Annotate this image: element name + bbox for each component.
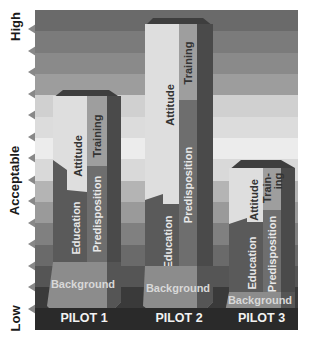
y-axis-acceptable-text: Acceptable	[8, 145, 23, 214]
pilot-3-predisposition-label: Predisposition	[263, 212, 281, 296]
pilot-3-column: Attitude Train- ing Education Predisposi…	[225, 10, 298, 330]
pilot-3-label: PILOT 3	[225, 311, 298, 325]
pilot-2-attitude-label: Attitude	[161, 60, 179, 150]
y-axis-acceptable-label: Acceptable	[0, 130, 30, 230]
pilot-2-predisposition-text: Predisposition	[182, 147, 194, 223]
pilot-3-attitude-text: Attitude	[248, 179, 260, 221]
pilot-3-training-label-2: ing	[272, 168, 284, 194]
pilot-3-education-label: Education	[243, 232, 261, 294]
pilot-3-education-text: Education	[246, 236, 258, 289]
pilot-2-education-text: Education	[162, 215, 174, 268]
pilot-2-background-label: Background	[143, 282, 213, 294]
pilot-3-predisposition-text: Predisposition	[266, 216, 278, 292]
y-axis-low-text: Low	[8, 305, 23, 331]
pilot-3-training-text-2: ing	[272, 173, 284, 190]
pilot-2-training-label: Training	[179, 28, 197, 98]
pilot-2-predisposition-label: Predisposition	[179, 130, 197, 240]
pilot-1-label: PILOT 1	[47, 311, 121, 325]
pilot-labels-strip: PILOT 1 PILOT 2 PILOT 3	[35, 308, 298, 330]
pilot-3-background-label: Background	[225, 294, 295, 306]
pilot-2-side	[197, 24, 213, 296]
pilot-2-attitude-text: Attitude	[164, 84, 176, 126]
pilot-1-education-text: Education	[70, 201, 82, 254]
pilot-2-label: PILOT 2	[143, 311, 215, 325]
chart-plot-area: Attitude Training Education Predispositi…	[35, 10, 298, 330]
pilot-1-training-text: Training	[91, 115, 103, 158]
y-axis-high-label: High	[0, 4, 30, 48]
pilot-1-column: Attitude Training Education Predispositi…	[47, 10, 125, 330]
pilot-1-predisposition-text: Predisposition	[91, 176, 103, 252]
pilot-1-education-label: Education	[67, 192, 85, 264]
pilot-2-training-text: Training	[182, 42, 194, 85]
y-axis-high-text: High	[7, 12, 22, 41]
pilot-1-background-label: Background	[47, 278, 119, 290]
pilot-1-predisposition-label: Predisposition	[87, 166, 107, 262]
y-axis-low-label: Low	[0, 298, 30, 338]
pilot-1-training-label: Training	[87, 106, 107, 166]
pilot-2-column: Attitude Training Education Predispositi…	[143, 10, 215, 330]
